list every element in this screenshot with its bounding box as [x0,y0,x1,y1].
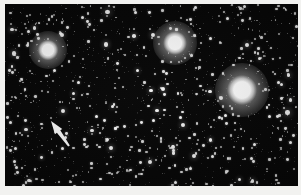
field-star [12,120,13,121]
field-star-medium [90,129,94,133]
field-star [35,74,36,75]
field-star [127,36,129,38]
field-star [235,59,236,60]
field-star [279,157,280,158]
field-star [252,29,253,30]
field-star [114,127,116,129]
field-star [53,69,56,72]
field-star [259,11,260,12]
field-star [271,151,273,153]
field-star [137,45,138,46]
field-star [292,88,293,89]
field-star [97,124,99,126]
field-star [238,29,239,30]
field-star [198,149,200,151]
field-star [29,180,31,182]
field-star [78,127,79,128]
field-star [259,143,260,144]
field-star [24,23,26,25]
field-star [43,124,44,125]
field-star [272,132,274,134]
field-star [116,172,118,174]
field-star [34,155,35,156]
field-star [158,114,159,115]
field-star [18,36,19,37]
field-star [243,8,244,9]
field-star [102,137,103,138]
field-star [203,77,204,78]
field-star [286,158,289,161]
field-star [259,35,261,37]
field-star [215,104,216,105]
field-star [36,33,39,36]
field-star [276,111,277,112]
field-star [287,94,289,96]
field-star [148,11,151,14]
field-star [269,86,270,87]
field-star [18,72,19,73]
field-star [30,102,32,104]
field-star [174,164,177,167]
field-star [8,73,9,74]
field-star [211,73,214,76]
field-star [164,155,166,157]
field-star [19,140,20,141]
field-star [244,158,246,160]
field-star [180,24,181,25]
field-star [210,127,211,128]
field-star [62,18,64,20]
bright-star-left [29,31,67,69]
field-star [168,145,170,147]
field-star [271,183,272,184]
field-star [171,182,172,183]
field-star [104,157,105,158]
field-star [83,51,84,52]
field-star [113,177,114,178]
field-star [233,146,235,148]
field-star [242,58,244,60]
field-star [291,119,292,120]
field-star [72,175,74,177]
field-star [210,135,211,136]
field-star [180,5,182,7]
field-star [25,149,26,150]
field-star [183,93,184,94]
field-star [71,17,72,18]
field-star [255,52,256,53]
field-star [88,23,91,26]
field-star [37,168,38,169]
field-star-medium [132,34,136,38]
field-star [119,166,121,168]
field-star [212,16,213,17]
field-star [68,135,69,136]
field-star [87,49,88,50]
field-star [129,31,130,32]
field-star [158,103,159,104]
field-star [249,179,250,180]
field-star [49,176,50,177]
field-star-medium [219,96,223,100]
field-star [48,20,49,21]
field-star [12,140,13,141]
field-star [142,169,144,171]
field-star [87,130,88,131]
field-star [85,44,86,45]
field-star [148,95,149,96]
field-star [268,89,270,91]
field-star [169,115,170,116]
field-star [61,147,64,150]
field-star [74,77,75,78]
field-star [137,76,138,77]
field-star [285,8,287,10]
field-star [93,29,95,31]
field-star [87,12,89,14]
field-star [133,8,135,10]
field-star [135,18,136,19]
field-star [185,79,187,81]
field-star [95,115,98,118]
field-star [53,14,54,15]
field-star [24,119,27,122]
field-star [275,87,276,88]
field-star [31,127,32,128]
field-star [83,93,84,94]
